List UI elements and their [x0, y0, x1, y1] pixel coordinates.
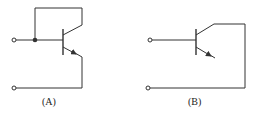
ground-terminal-a [12, 86, 16, 90]
label-a: (A) [42, 96, 56, 107]
emitter-a [63, 47, 76, 54]
circuit-b [146, 24, 245, 90]
input-terminal-a [12, 38, 16, 42]
label-b: (B) [188, 96, 201, 107]
input-terminal-b [148, 38, 152, 42]
ground-terminal-b [146, 86, 150, 90]
circuit-a [12, 8, 82, 90]
circuit-diagram [0, 0, 256, 115]
emitter-b [196, 47, 211, 56]
